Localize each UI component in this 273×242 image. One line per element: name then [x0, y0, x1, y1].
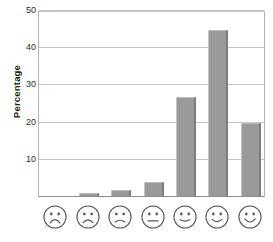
y-axis-tick-labels: 5040302010	[0, 0, 36, 242]
y-tick-label-20: 20	[6, 118, 36, 127]
slightly-happy-face-icon	[172, 204, 198, 230]
y-tick-label-10: 10	[6, 155, 36, 164]
bar-chart: Percentage 5040302010	[0, 0, 273, 242]
bar-happy-face	[208, 30, 228, 197]
y-tick-label-50: 50	[6, 6, 36, 15]
x-axis-baseline	[39, 196, 264, 197]
very-happy-face-icon	[237, 204, 263, 230]
bar-very-happy-face	[241, 123, 261, 197]
slightly-sad-face-icon	[107, 204, 133, 230]
bar-slightly-happy-face	[176, 97, 196, 197]
gridline-50	[39, 10, 264, 11]
neutral-face-icon	[140, 204, 166, 230]
happy-face-icon	[204, 204, 230, 230]
very-sad-face-icon	[42, 204, 68, 230]
bar-neutral-face	[144, 182, 164, 197]
y-tick-label-30: 30	[6, 80, 36, 89]
y-tick-label-40: 40	[6, 43, 36, 52]
plot-area	[38, 11, 265, 197]
x-axis-face-labels	[38, 200, 265, 240]
bar-series	[39, 12, 264, 197]
sad-face-icon	[75, 204, 101, 230]
